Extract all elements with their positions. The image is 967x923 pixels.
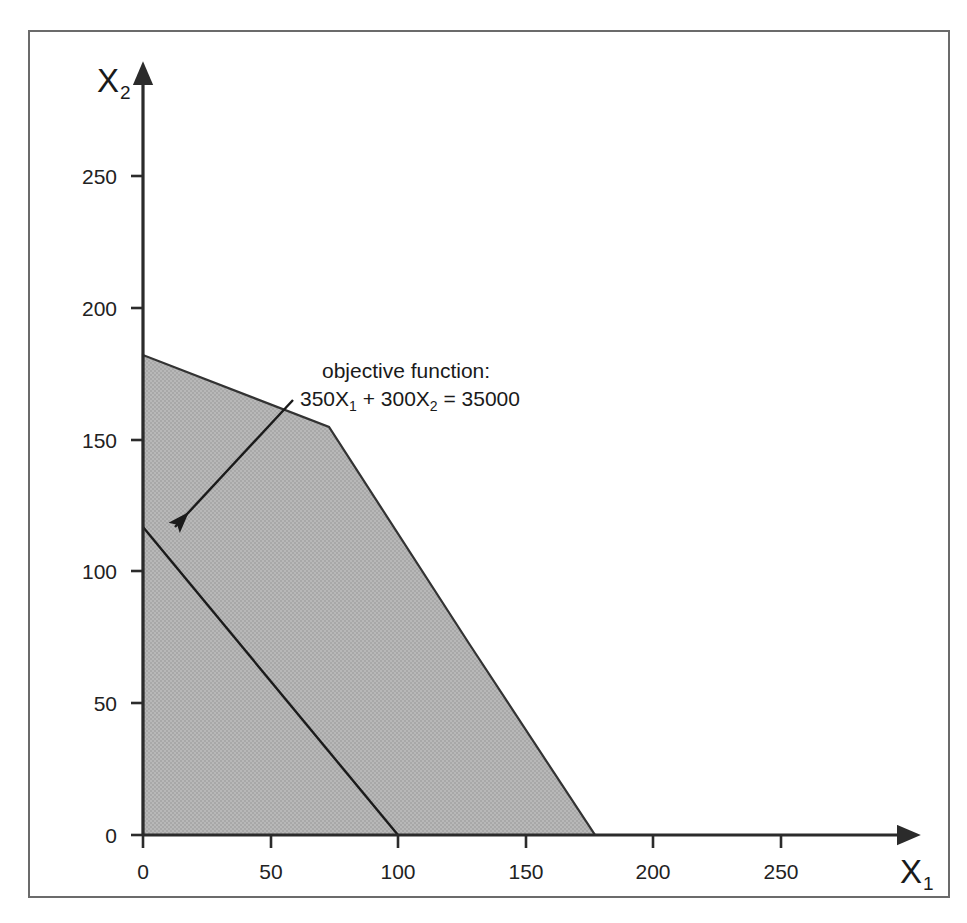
y-tick-label-250: 250 [67, 165, 117, 189]
feasible-region [143, 355, 595, 835]
y-tick-label-200: 200 [67, 297, 117, 321]
objective-function-annotation: objective function: 350X1 + 300X2 = 3500… [300, 357, 520, 414]
annotation-sub-1: 1 [349, 398, 357, 414]
y-axis-title-text: X [97, 62, 119, 99]
y-axis-title: X2 [97, 62, 130, 100]
x-tick-label-100: 100 [373, 860, 423, 884]
x-axis-ticks [143, 835, 781, 848]
x-axis-title: X1 [900, 853, 933, 891]
plot-canvas [0, 0, 967, 923]
y-tick-label-0: 0 [67, 824, 117, 848]
annotation-term-1: 350X [300, 387, 349, 410]
y-tick-label-50: 50 [67, 692, 117, 716]
y-tick-label-150: 150 [67, 429, 117, 453]
annotation-term-3: = 35000 [438, 387, 520, 410]
y-axis-ticks [131, 176, 143, 835]
figure-page: 0 50 100 150 200 250 0 50 100 150 200 25… [0, 0, 967, 923]
y-axis-title-subscript: 2 [120, 82, 131, 103]
x-axis-title-subscript: 1 [923, 873, 934, 894]
x-tick-label-200: 200 [628, 860, 678, 884]
x-tick-label-250: 250 [756, 860, 806, 884]
annotation-sub-2: 2 [430, 398, 438, 414]
y-tick-label-100: 100 [67, 560, 117, 584]
x-tick-label-150: 150 [501, 860, 551, 884]
annotation-line-1: objective function: [300, 357, 520, 385]
x-axis-title-text: X [900, 853, 922, 890]
x-tick-label-50: 50 [246, 860, 296, 884]
x-tick-label-0: 0 [118, 860, 168, 884]
annotation-line-2: 350X1 + 300X2 = 35000 [300, 385, 520, 413]
annotation-term-2: + 300X [357, 387, 430, 410]
